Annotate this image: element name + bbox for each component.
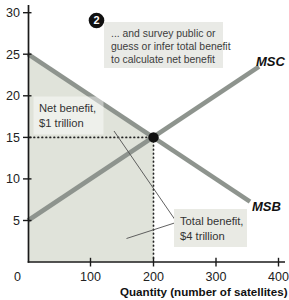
step-2-text-line1: ... and survey public or	[111, 28, 216, 39]
step-2-text-line3: to calculate net benefit	[111, 54, 215, 65]
step-2-badge-number: 2	[93, 14, 99, 26]
x-axis-title: Quantity (number of satellites)	[120, 285, 288, 298]
total-benefit-shaded-area	[29, 54, 154, 261]
y-tick-15: 15	[6, 131, 20, 145]
cost-benefit-chart: 30 25 20 15 10 5 0 100 200 300 400 Quant…	[0, 0, 289, 300]
total-benefit-text-line2: $4 trillion	[180, 230, 225, 242]
y-tick-20: 20	[6, 89, 20, 103]
msc-label: MSC	[256, 54, 286, 69]
x-tick-400: 400	[268, 270, 289, 284]
net-benefit-text-line1: Net benefit,	[39, 102, 96, 114]
step-2-annotation: ... and survey public or guess or infer …	[89, 13, 231, 68]
total-benefit-text-line1: Total benefit,	[180, 215, 243, 227]
x-tick-0: 0	[14, 270, 21, 284]
x-tick-100: 100	[80, 270, 101, 284]
y-tick-5: 5	[13, 214, 20, 228]
y-tick-25: 25	[6, 48, 20, 62]
step-2-text-line2: guess or infer total benefit	[111, 41, 231, 52]
equilibrium-point	[148, 132, 158, 142]
chart-canvas: 30 25 20 15 10 5 0 100 200 300 400 Quant…	[0, 0, 289, 300]
y-tick-30: 30	[6, 6, 20, 20]
total-benefit-label: Total benefit, $4 trillion	[174, 209, 247, 247]
net-benefit-text-line2: $1 trillion	[39, 117, 84, 129]
net-benefit-label: Net benefit, $1 trillion	[34, 97, 104, 135]
y-tick-10: 10	[6, 172, 20, 186]
x-tick-200: 200	[143, 270, 164, 284]
x-tick-300: 300	[206, 270, 227, 284]
msb-label: MSB	[252, 199, 281, 214]
